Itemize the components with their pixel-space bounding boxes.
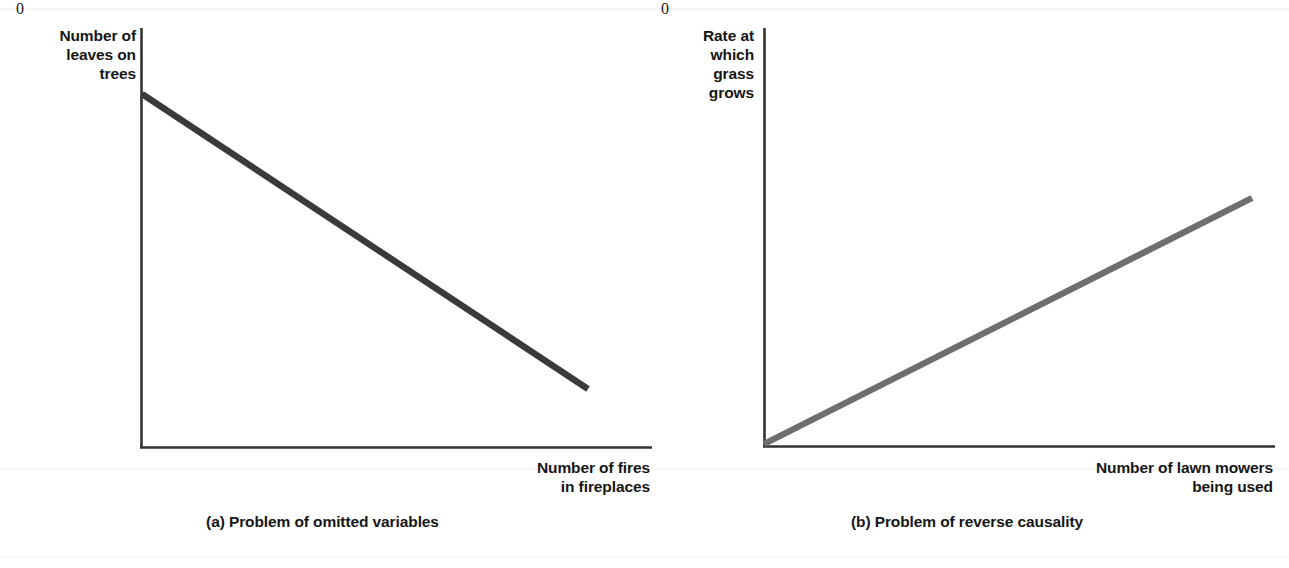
- chart-b-y-axis-label: Rate at which grass grows: [672, 26, 754, 102]
- panel-omitted-variables: Number of leaves on trees Number of fire…: [0, 0, 644, 568]
- panel-reverse-causality: Rate at which grass grows Number of lawn…: [645, 0, 1289, 568]
- chart-a-data-line: [142, 94, 588, 389]
- chart-a-y-axis-label: Number of leaves on trees: [14, 26, 136, 83]
- chart-a-x-axis-label: Number of fires in fireplaces: [392, 458, 650, 496]
- chart-b-x-axis-label: Number of lawn mowers being used: [1000, 458, 1273, 496]
- caption-panel-b: (b) Problem of reverse causality: [645, 513, 1289, 531]
- caption-panel-a: (a) Problem of omitted variables: [0, 513, 645, 531]
- chart-b-data-line: [764, 198, 1252, 444]
- figure-canvas: Number of leaves on trees Number of fire…: [0, 0, 1289, 568]
